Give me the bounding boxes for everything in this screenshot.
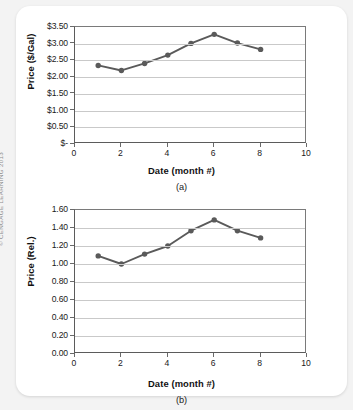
data-point-marker [258, 47, 263, 52]
gridline [75, 228, 305, 229]
data-point-marker [96, 253, 101, 258]
x-tick-mark [74, 353, 75, 357]
y-tick-mark [70, 299, 74, 300]
x-tick-label: 6 [211, 148, 216, 158]
gridline [75, 264, 305, 265]
gridline [75, 60, 305, 61]
series-line [98, 34, 260, 70]
x-tick-mark [74, 143, 75, 147]
x-tick-mark [213, 143, 214, 147]
chart-a-plot-area [74, 26, 306, 143]
y-tick-label: $2.50 [47, 54, 68, 64]
data-point-marker [142, 61, 147, 66]
x-tick-label: 2 [118, 148, 123, 158]
data-point-marker [142, 251, 147, 256]
series-line [98, 220, 260, 264]
y-tick-mark [70, 42, 74, 43]
x-tick-mark [306, 143, 307, 147]
y-tick-label: 1.20 [52, 240, 68, 250]
y-tick-label: $1.50 [47, 88, 68, 98]
y-tick-mark [70, 109, 74, 110]
chart-a-x-axis-title: Date (month #) [16, 165, 347, 176]
chart-b-x-axis-title: Date (month #) [16, 378, 347, 389]
chart-a: Price ($/Gal) $-$0.50$1.00$1.50$2.00$2.5… [16, 10, 347, 196]
x-tick-label: 6 [211, 358, 216, 368]
x-tick-label: 8 [257, 148, 262, 158]
data-point-marker [212, 32, 217, 37]
x-tick-label: 4 [164, 148, 169, 158]
chart-b-x-tick-labels: 0246810 [74, 353, 306, 373]
chart-b: Price (Rel.) 0.000.200.400.600.801.001.2… [16, 196, 347, 392]
data-point-marker [258, 235, 263, 240]
y-tick-label: 1.60 [52, 204, 68, 214]
gridline [75, 300, 305, 301]
x-tick-mark [213, 353, 214, 357]
x-tick-mark [120, 353, 121, 357]
y-tick-mark [70, 76, 74, 77]
data-point-marker [165, 52, 170, 57]
copyright-notice: © CENGAGE LEARNING 2013 [0, 106, 4, 246]
y-tick-mark [70, 26, 74, 27]
y-tick-label: $1.00 [47, 105, 68, 115]
x-tick-mark [120, 143, 121, 147]
chart-a-x-tick-labels: 0246810 [74, 143, 306, 163]
x-tick-label: 0 [72, 358, 77, 368]
x-tick-mark [260, 353, 261, 357]
y-tick-label: 1.40 [52, 222, 68, 232]
y-tick-label: 0.60 [52, 294, 68, 304]
y-tick-label: 0.20 [52, 330, 68, 340]
gridline [75, 94, 305, 95]
gridline [75, 77, 305, 78]
y-tick-mark [70, 317, 74, 318]
x-tick-label: 10 [301, 148, 311, 158]
y-tick-mark [70, 59, 74, 60]
gridline [75, 282, 305, 283]
data-point-marker [212, 217, 217, 222]
figure-page: Price ($/Gal) $-$0.50$1.00$1.50$2.00$2.5… [0, 0, 353, 410]
y-tick-mark [70, 281, 74, 282]
x-tick-label: 4 [164, 358, 169, 368]
x-tick-mark [167, 353, 168, 357]
chart-a-y-tick-labels: $-$0.50$1.00$1.50$2.00$2.50$3.00$3.50 [16, 26, 68, 143]
gridline [75, 44, 305, 45]
y-tick-mark [70, 92, 74, 93]
y-tick-label: $2.00 [47, 71, 68, 81]
gridline [75, 246, 305, 247]
y-tick-mark [70, 245, 74, 246]
y-tick-label: 0.80 [52, 276, 68, 286]
chart-b-plot-area [74, 209, 306, 353]
y-tick-mark [70, 143, 74, 144]
y-tick-mark [70, 335, 74, 336]
y-tick-label: 0.00 [52, 348, 68, 358]
y-tick-label: $0.50 [47, 121, 68, 131]
data-point-marker [96, 63, 101, 68]
y-tick-mark [70, 209, 74, 210]
y-tick-mark [70, 126, 74, 127]
gridline [75, 127, 305, 128]
y-tick-label: 1.00 [52, 258, 68, 268]
y-tick-label: $- [61, 138, 68, 148]
figure-card: Price ($/Gal) $-$0.50$1.00$1.50$2.00$2.5… [16, 6, 347, 396]
x-tick-mark [306, 353, 307, 357]
x-tick-label: 0 [72, 148, 77, 158]
x-tick-mark [167, 143, 168, 147]
x-tick-label: 8 [257, 358, 262, 368]
gridline [75, 336, 305, 337]
y-tick-mark [70, 353, 74, 354]
chart-a-caption: (a) [16, 182, 347, 192]
gridline [75, 111, 305, 112]
x-tick-mark [260, 143, 261, 147]
y-tick-mark [70, 227, 74, 228]
gridline [75, 318, 305, 319]
data-point-marker [119, 68, 124, 73]
x-tick-label: 2 [118, 358, 123, 368]
x-tick-label: 10 [301, 358, 311, 368]
chart-b-y-tick-labels: 0.000.200.400.600.801.001.201.401.60 [16, 209, 68, 353]
y-tick-label: $3.00 [47, 38, 68, 48]
y-tick-label: $3.50 [47, 21, 68, 31]
y-tick-mark [70, 263, 74, 264]
y-tick-label: 0.40 [52, 312, 68, 322]
chart-b-caption: (b) [16, 395, 347, 405]
